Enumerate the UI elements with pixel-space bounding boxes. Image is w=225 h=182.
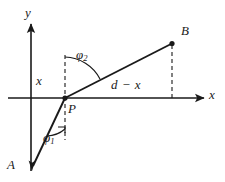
- angle-label-phi2-subscript: 2: [83, 53, 87, 63]
- distance-label-d-minus-x: d − x: [111, 78, 141, 91]
- point-b-label: B: [181, 24, 189, 37]
- point-p-dot: [62, 95, 67, 100]
- point-b-dot: [169, 41, 174, 46]
- y-axis-label: y: [25, 6, 31, 19]
- angle-label-phi1: φ1: [43, 131, 55, 146]
- distance-label-x: x: [36, 74, 42, 87]
- angle-label-phi2: φ2: [76, 48, 88, 63]
- x-axis-label: x: [209, 88, 215, 101]
- angle-label-phi1-subscript: 1: [50, 136, 54, 146]
- point-a-label: A: [7, 158, 15, 171]
- point-a-arrowhead: [29, 161, 36, 172]
- refraction-diagram-figure: y x A P B x d − x φ2 φ1: [0, 0, 225, 182]
- point-p-label: P: [68, 102, 76, 115]
